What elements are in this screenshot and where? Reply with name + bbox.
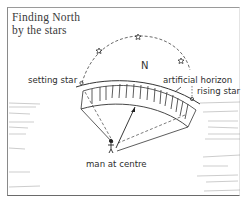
- setting-star-label: setting star: [28, 75, 77, 85]
- text-scribble-left: [9, 103, 40, 187]
- north-label: N: [141, 60, 148, 71]
- north-arrow: [116, 107, 135, 148]
- horizon-hatching: [92, 84, 188, 119]
- man-at-centre-label: man at centre: [86, 159, 147, 169]
- rising-star-label: rising star: [197, 86, 240, 96]
- star-diagram: [0, 0, 247, 203]
- text-scribble-right: [197, 102, 240, 191]
- man-figure: [108, 139, 114, 153]
- artificial-horizon-label: artificial horizon: [163, 75, 232, 85]
